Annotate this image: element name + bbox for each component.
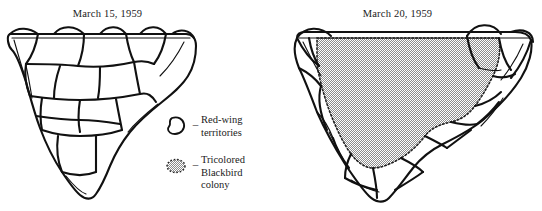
panel-title-left: March 15, 1959	[0, 8, 215, 19]
divider-l6	[54, 66, 60, 98]
accent-left-rib	[14, 40, 26, 80]
rw-right-1	[425, 136, 447, 148]
figure-root: March 15, 1959 March 20, 1959	[0, 0, 542, 211]
tricolored-colony-icon	[164, 155, 190, 177]
territory-map-right-svg	[285, 20, 542, 211]
divider-band-3b	[80, 120, 120, 124]
rw-bottom-2	[373, 168, 377, 198]
divider-l10	[79, 100, 81, 132]
rw-right-3	[451, 122, 477, 125]
divider-band-3	[36, 116, 80, 120]
divider-band-5	[62, 172, 96, 175]
panel-title-right: March 20, 1959	[290, 8, 505, 19]
divider-l8	[134, 62, 140, 94]
territory-map-march-20	[285, 20, 542, 211]
divider-l9	[41, 98, 43, 130]
divider-band-4	[42, 130, 122, 136]
divider-l7	[98, 67, 100, 98]
rw-right-7	[499, 38, 511, 70]
legend-dash-1: –	[190, 116, 201, 132]
red-wing-territory-icon	[164, 115, 190, 137]
legend-dash-2: –	[190, 156, 201, 172]
legend-item-red-wing-territories: – Red-wing territories	[164, 114, 242, 139]
divider-l2	[78, 34, 84, 66]
rw-right-8	[511, 40, 531, 78]
edge-bump-r1	[297, 29, 331, 38]
divider-band-2	[30, 93, 156, 102]
legend-label-red-wing-territories: Red-wing territories	[201, 114, 242, 139]
legend-item-tricolored-colony: – Tricolored Blackbird colony	[164, 154, 245, 192]
divider-l11	[116, 99, 122, 130]
legend-label-tricolored-colony: Tricolored Blackbird colony	[201, 154, 245, 192]
legend: – Red-wing territories –	[164, 110, 286, 202]
edge-bump-r2	[467, 25, 501, 36]
